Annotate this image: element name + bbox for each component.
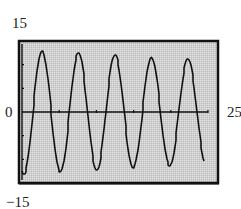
calculator-graph (0, 0, 241, 209)
